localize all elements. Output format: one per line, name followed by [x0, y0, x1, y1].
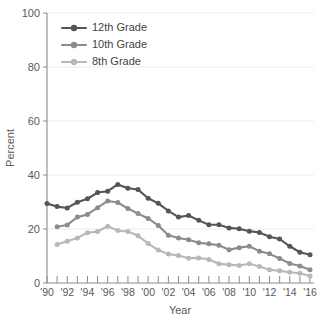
- data-point: [206, 257, 211, 262]
- data-point: [297, 263, 302, 268]
- data-point: [75, 200, 80, 205]
- y-axis-title: Percent: [4, 129, 16, 167]
- data-point: [206, 241, 211, 246]
- data-point: [136, 187, 141, 192]
- data-point: [176, 253, 181, 258]
- data-point: [308, 267, 313, 272]
- data-point: [287, 261, 292, 266]
- chart-canvas: 020406080100 '90'92'94'96'98'00'02'04'06…: [0, 0, 326, 321]
- legend-label: 8th Grade: [92, 55, 141, 67]
- data-point: [267, 251, 272, 256]
- data-point: [115, 228, 120, 233]
- data-point: [308, 252, 313, 257]
- x-tick-label: '10: [242, 286, 256, 298]
- data-point: [125, 229, 130, 234]
- data-point: [247, 229, 252, 234]
- data-point: [237, 226, 242, 231]
- x-tick-label: '98: [121, 286, 135, 298]
- legend-label: 10th Grade: [92, 38, 147, 50]
- y-tick-label: 20: [28, 223, 40, 235]
- data-point: [105, 198, 110, 203]
- x-tick-label: '06: [202, 286, 216, 298]
- data-point: [105, 189, 110, 194]
- data-point: [196, 255, 201, 260]
- data-point: [95, 229, 100, 234]
- x-tick-label: '00: [141, 286, 155, 298]
- data-point: [287, 270, 292, 275]
- data-point: [227, 247, 232, 252]
- x-tick-label: '12: [263, 286, 277, 298]
- data-point: [308, 273, 313, 278]
- y-tick-label: 60: [28, 115, 40, 127]
- legend-item-2: 10th Grade: [62, 38, 147, 50]
- data-point: [206, 222, 211, 227]
- series-line: [57, 226, 310, 276]
- data-point: [156, 248, 161, 253]
- y-tick-label: 0: [34, 277, 40, 289]
- data-point: [136, 211, 141, 216]
- series-2: [55, 198, 313, 272]
- x-axis-title: Year: [169, 304, 192, 316]
- data-point: [65, 205, 70, 210]
- legend-marker-icon: [71, 59, 77, 65]
- y-tick-label: 80: [28, 61, 40, 73]
- x-tick-label: '02: [162, 286, 176, 298]
- data-point: [55, 204, 60, 209]
- x-tick-label: '96: [101, 286, 115, 298]
- data-point: [297, 271, 302, 276]
- data-point: [95, 190, 100, 195]
- data-point: [156, 201, 161, 206]
- data-point: [287, 244, 292, 249]
- data-point: [247, 244, 252, 249]
- data-point: [257, 264, 262, 269]
- data-point: [277, 268, 282, 273]
- data-point: [267, 267, 272, 272]
- x-axis-tick-group: '90'92'94'96'98'00'02'04'06'08'10'12'14'…: [40, 276, 317, 298]
- data-point: [237, 263, 242, 268]
- data-point: [75, 235, 80, 240]
- data-point: [227, 225, 232, 230]
- percent-by-grade-line-chart: 020406080100 '90'92'94'96'98'00'02'04'06…: [0, 0, 326, 321]
- y-tick-label: 40: [28, 169, 40, 181]
- x-tick-label: '08: [222, 286, 236, 298]
- data-point: [125, 186, 130, 191]
- series-line: [57, 201, 310, 270]
- data-point: [95, 205, 100, 210]
- legend: 12th Grade10th Grade8th Grade: [62, 21, 147, 67]
- data-point: [65, 239, 70, 244]
- data-point: [166, 208, 171, 213]
- data-point: [267, 234, 272, 239]
- data-point: [85, 196, 90, 201]
- data-point: [186, 237, 191, 242]
- data-series-group: [45, 182, 313, 279]
- data-point: [55, 224, 60, 229]
- data-point: [176, 215, 181, 220]
- data-point: [75, 215, 80, 220]
- series-3: [55, 224, 313, 279]
- data-point: [146, 241, 151, 246]
- x-tick-label: '90: [40, 286, 54, 298]
- data-point: [196, 218, 201, 223]
- legend-item-3: 8th Grade: [62, 55, 141, 67]
- data-point: [227, 262, 232, 267]
- data-point: [277, 236, 282, 241]
- data-point: [186, 213, 191, 218]
- data-point: [166, 252, 171, 257]
- data-point: [166, 233, 171, 238]
- data-point: [125, 206, 130, 211]
- data-point: [146, 216, 151, 221]
- data-point: [186, 256, 191, 261]
- legend-marker-icon: [71, 25, 77, 31]
- data-point: [85, 230, 90, 235]
- data-point: [216, 222, 221, 227]
- data-point: [136, 233, 141, 238]
- series-1: [45, 182, 313, 257]
- data-point: [156, 223, 161, 228]
- data-point: [237, 245, 242, 250]
- data-point: [115, 200, 120, 205]
- data-point: [146, 196, 151, 201]
- data-point: [85, 212, 90, 217]
- data-point: [216, 261, 221, 266]
- data-point: [55, 242, 60, 247]
- x-tick-label: '16: [303, 286, 317, 298]
